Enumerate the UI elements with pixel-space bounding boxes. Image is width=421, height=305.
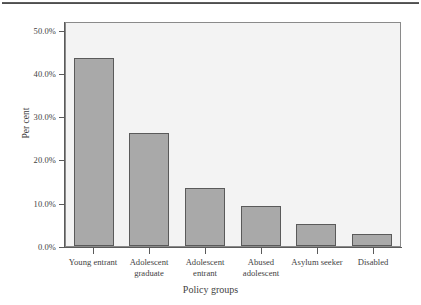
y-tick-label-2: 20.0% <box>0 155 56 165</box>
x-axis-line <box>64 247 402 248</box>
y-axis-title: Per cent <box>21 93 31 153</box>
bar-asylum-seeker <box>296 224 336 246</box>
y-tick-mark-1 <box>59 204 65 205</box>
y-tick-label-4: 40.0% <box>0 69 56 79</box>
plot-area <box>65 22 401 247</box>
y-tick-mark-3 <box>59 117 65 118</box>
bar-disabled <box>352 234 392 246</box>
bar-adolescent-graduate <box>129 133 169 246</box>
bar-adolescent-entrant <box>185 188 225 246</box>
x-tick-mark-5 <box>373 248 374 254</box>
x-tick-mark-1 <box>149 248 150 254</box>
top-horizontal-rule <box>2 2 419 4</box>
x-tick-label-line: Disabled <box>331 257 415 268</box>
y-tick-mark-5 <box>59 31 65 32</box>
x-tick-mark-4 <box>317 248 318 254</box>
y-tick-label-5: 50.0% <box>0 26 56 36</box>
y-tick-label-1: 10.0% <box>0 199 56 209</box>
bar-series <box>66 23 400 246</box>
x-axis-title: Policy groups <box>0 284 421 295</box>
bar-young-entrant <box>74 58 114 246</box>
y-tick-label-0: 0.0% <box>0 242 56 252</box>
y-tick-mark-4 <box>59 74 65 75</box>
y-axis-line <box>64 22 65 248</box>
y-tick-mark-2 <box>59 160 65 161</box>
x-tick-mark-2 <box>205 248 206 254</box>
x-tick-mark-3 <box>261 248 262 254</box>
x-tick-label-line: adolescent <box>219 268 303 279</box>
bar-chart-figure: 0.0% 10.0% 20.0% 30.0% 40.0% 50.0% Per c… <box>0 0 421 305</box>
x-tick-mark-0 <box>93 248 94 254</box>
bar-abused-adolescent <box>241 206 281 246</box>
x-tick-label-disabled: Disabled <box>331 257 415 268</box>
